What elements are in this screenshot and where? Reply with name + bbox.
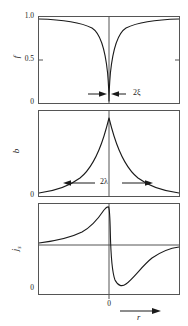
panel-b-annotation: 2λ: [100, 177, 108, 186]
panel-b-ytick-0: 0: [6, 190, 34, 199]
panel-f-ytick-05: 0.5: [6, 54, 34, 63]
panel-b-frame: [38, 110, 180, 197]
panel-js-ylabel-sub: s: [16, 246, 22, 248]
panel-js-ylabel-main: j: [10, 249, 20, 252]
xaxis-label: r: [137, 312, 140, 322]
panel-f-annotation: 2ξ: [133, 88, 141, 97]
panel-b-ylabel: b: [11, 143, 21, 159]
panel-js-ytick-0: 0: [6, 283, 34, 292]
panel-f-ytick-0: 0: [6, 97, 34, 106]
vortex-profile-figure: f 1.0 0.5 0 2ξ b 0 2λ js 0: [0, 0, 188, 326]
panel-f-ytick-1: 1.0: [6, 11, 34, 20]
panel-f-frame: [38, 16, 180, 104]
xaxis-origin-tick: 0: [101, 299, 117, 308]
panel-js-frame: [38, 203, 180, 295]
panel-js-ylabel: js: [10, 237, 22, 261]
